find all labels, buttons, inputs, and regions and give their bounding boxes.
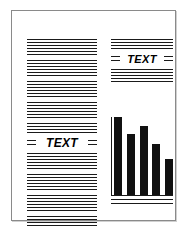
- text-rule: [111, 203, 173, 204]
- chart-bar: [165, 159, 173, 195]
- chart-bar: [114, 117, 122, 195]
- text-rule: [27, 162, 97, 163]
- chart-x-axis: [111, 195, 173, 196]
- text-rule: [111, 72, 173, 73]
- text-rule: [27, 195, 97, 196]
- text-rule: [111, 81, 173, 82]
- text-rule: [27, 60, 97, 61]
- right-column-lines-above: [111, 39, 173, 49]
- text-rule: [27, 39, 97, 40]
- text-rule: [27, 54, 97, 55]
- text-rule: [27, 126, 97, 127]
- text-rule: [27, 63, 97, 64]
- text-rule: [27, 156, 97, 157]
- text-rule: [27, 222, 97, 223]
- document-sheet: TEXT TEXT: [11, 10, 176, 221]
- right-label-dash-right: [164, 56, 173, 61]
- text-rule: [27, 225, 97, 226]
- chart-y-axis: [111, 117, 112, 195]
- right-column-lines-below: [111, 69, 173, 82]
- left-label-dash-right: [88, 140, 97, 145]
- text-rule: [27, 201, 97, 202]
- text-rule: [27, 210, 97, 211]
- bar-chart: [111, 117, 173, 195]
- text-rule: [27, 180, 97, 181]
- text-rule: [111, 42, 173, 43]
- text-rule: [27, 198, 97, 199]
- text-rule: [27, 183, 97, 184]
- text-rule: [27, 216, 97, 217]
- text-rule: [27, 165, 97, 166]
- left-text-label-value: TEXT: [36, 137, 88, 149]
- left-label-dash-left: [27, 140, 36, 145]
- text-rule: [27, 96, 97, 97]
- right-text-label-value: TEXT: [120, 53, 164, 65]
- chart-bar: [127, 134, 135, 195]
- text-rule: [27, 159, 97, 160]
- text-rule: [27, 177, 97, 178]
- right-label-dash-left: [111, 56, 120, 61]
- text-rule: [111, 69, 173, 70]
- text-rule: [27, 75, 97, 76]
- text-rule: [27, 207, 97, 208]
- text-rule: [27, 48, 97, 49]
- chart-bars: [114, 117, 173, 195]
- text-rule: [27, 108, 97, 109]
- text-rule: [27, 87, 97, 88]
- page-root: TEXT TEXT: [0, 0, 188, 235]
- chart-bar: [152, 144, 160, 195]
- text-rule: [27, 114, 97, 115]
- text-rule: [27, 102, 97, 103]
- text-rule: [27, 90, 97, 91]
- text-rule: [27, 174, 97, 175]
- text-rule: [111, 45, 173, 46]
- text-rule: [27, 111, 97, 112]
- right-text-column: TEXT: [111, 39, 173, 84]
- text-rule: [27, 105, 97, 106]
- left-text-label: TEXT: [27, 136, 97, 149]
- left-text-column: TEXT: [27, 39, 97, 228]
- text-rule: [27, 123, 97, 124]
- text-rule: [27, 204, 97, 205]
- text-rule: [27, 168, 97, 169]
- text-rule: [27, 189, 97, 190]
- text-rule: [27, 42, 97, 43]
- text-rule: [111, 39, 173, 40]
- text-rule: [27, 132, 97, 133]
- text-rule: [111, 48, 173, 49]
- left-column-lines-above: [27, 39, 97, 133]
- text-rule: [27, 153, 97, 154]
- chart-footer-rules: [111, 199, 173, 207]
- text-rule: [27, 69, 97, 70]
- text-rule: [27, 219, 97, 220]
- text-rule: [27, 66, 97, 67]
- text-rule: [27, 51, 97, 52]
- text-rule: [27, 84, 97, 85]
- text-rule: [27, 129, 97, 130]
- left-column-lines-below: [27, 153, 97, 226]
- text-rule: [27, 81, 97, 82]
- text-rule: [27, 45, 97, 46]
- text-rule: [27, 186, 97, 187]
- text-rule: [27, 93, 97, 94]
- text-rule: [111, 199, 173, 200]
- text-rule: [111, 78, 173, 79]
- text-rule: [27, 117, 97, 118]
- chart-bar: [140, 126, 148, 195]
- text-rule: [27, 72, 97, 73]
- right-text-label: TEXT: [111, 52, 173, 65]
- text-rule: [111, 75, 173, 76]
